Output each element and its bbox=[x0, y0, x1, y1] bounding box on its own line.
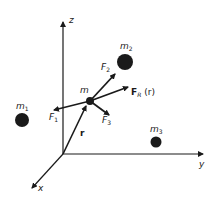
force-diagram: z y x m m1 m2 m3 r F1 F2 F3 FR (r) bbox=[0, 0, 219, 202]
force-f1-label: F1 bbox=[49, 113, 58, 122]
vector-r-label: r bbox=[80, 129, 84, 138]
mass-m3-label-sub: 3 bbox=[159, 128, 163, 135]
y-axis-label: y bbox=[199, 160, 204, 169]
mass-m1-label-sub: 1 bbox=[25, 105, 29, 112]
force-fr-label-arg: (r) bbox=[144, 87, 155, 97]
mass-m3 bbox=[151, 137, 162, 148]
force-fr-label-sub: R bbox=[137, 91, 141, 98]
mass-m bbox=[86, 97, 94, 105]
mass-m2-label-sub: 2 bbox=[129, 45, 133, 52]
force-f3-label: F3 bbox=[102, 116, 111, 125]
mass-m3-label-main: m bbox=[150, 124, 159, 134]
mass-m3-label: m3 bbox=[150, 125, 163, 134]
z-axis-label: z bbox=[69, 16, 74, 25]
diagram-graphics bbox=[0, 0, 219, 202]
mass-m2-label: m2 bbox=[120, 42, 133, 51]
mass-m2 bbox=[117, 54, 133, 70]
force-f3-label-sub: 3 bbox=[107, 119, 111, 126]
x-axis-label: x bbox=[38, 184, 43, 193]
mass-m1-label: m1 bbox=[16, 102, 29, 111]
mass-m-label: m bbox=[80, 86, 89, 95]
force-fr-label: FR (r) bbox=[131, 88, 155, 97]
mass-m1-label-main: m bbox=[16, 101, 25, 111]
force-f2-label-sub: 2 bbox=[106, 66, 110, 73]
x-axis bbox=[32, 154, 63, 188]
mass-m2-label-main: m bbox=[120, 41, 129, 51]
force-f2-label: F2 bbox=[101, 63, 110, 72]
mass-m1 bbox=[15, 113, 29, 127]
force-f1-label-sub: 1 bbox=[54, 116, 58, 123]
